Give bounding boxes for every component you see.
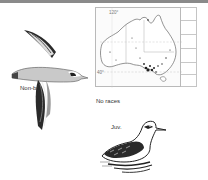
flying-bird-illustration: [8, 22, 90, 134]
distribution-map: 120° 40°: [95, 7, 181, 87]
swimming-bird-illustration: [100, 118, 168, 174]
top-bar: [0, 0, 208, 3]
australia-outline: [96, 8, 182, 88]
map-caption: No races: [96, 98, 120, 104]
flying-bird-label: Non-br.: [20, 85, 40, 91]
map-side-grid: [181, 7, 197, 87]
